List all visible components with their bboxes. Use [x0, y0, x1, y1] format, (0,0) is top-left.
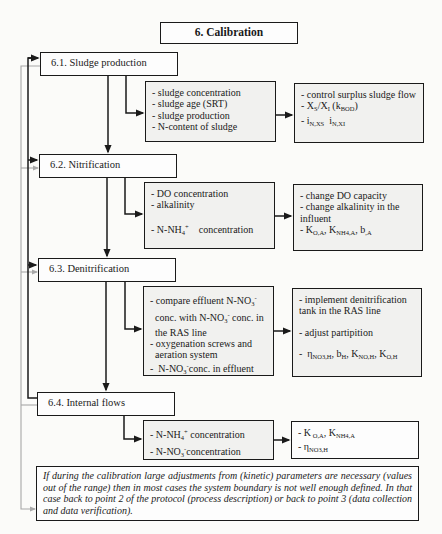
internal-flows-checks: - N-NH4+ concentration - N-NO3-concentra… [143, 420, 274, 460]
action-item: - change DO capacity [300, 190, 416, 201]
check-item: the RAS line [150, 327, 267, 338]
check-item: aeration system [150, 349, 267, 360]
sludge-production-checks: - sludge concentration - sludge age (SRT… [145, 81, 276, 142]
check-item: - DO concentration [151, 188, 268, 199]
action-item: - KO,A, KNH4,A, b,A [300, 224, 416, 238]
action-item: - change alkalinity in the influent [300, 201, 416, 224]
check-item: - sludge concentration [152, 87, 269, 98]
page-title: 6. Calibration [160, 22, 298, 44]
action-item: - implement denitrification tank in the … [299, 294, 415, 317]
check-item: - N-content of sludge [152, 121, 269, 132]
check-item: - alkalinity [151, 199, 268, 210]
section-heading-denitrification: 6.3. Denitrification [38, 258, 176, 282]
check-item: - oxygenation screws and [150, 338, 267, 349]
check-item: - sludge age (SRT) [152, 98, 269, 109]
action-item: - control surplus sludge flow [301, 89, 417, 100]
check-item: - N-NH4+ concentration [151, 221, 268, 238]
section-heading-nitrification: 6.2. Nitrification [39, 154, 177, 178]
internal-flows-actions: - K O,A, KNH4,A - ηNO3,H [291, 421, 419, 459]
check-item: - compare effluent N-NO3- [150, 292, 267, 309]
denitrification-checks: - compare effluent N-NO3- conc. with N-N… [143, 286, 274, 376]
nitrification-actions: - change DO capacity - change alkalinity… [293, 184, 423, 251]
sludge-production-actions: - control surplus sludge flow - XS/XI (k… [294, 83, 424, 143]
check-item: - N-NO3-concentration [150, 443, 267, 460]
check-item: - sludge production [152, 110, 269, 121]
action-item: - iN,XS iN,XI [301, 115, 417, 129]
section-heading-internal-flows: 6.4. Internal flows [37, 392, 175, 416]
section-heading-sludge-production: 6.1. Sludge production [40, 52, 178, 76]
action-item: - adjust partipition [299, 327, 415, 338]
action-item: - K O,A, KNH4,A [298, 427, 412, 441]
calibration-note: If during the calibration large adjustme… [36, 466, 419, 521]
action-item: - ηNO3,H [298, 441, 412, 455]
action-item: - XS/XI (kBOD) [301, 100, 417, 114]
denitrification-actions: - implement denitrification tank in the … [292, 288, 422, 377]
check-item: conc. with N-NO3- conc. in [150, 309, 267, 326]
check-item: - N-NH4+ concentration [150, 426, 267, 443]
nitrification-checks: - DO concentration - alkalinity - N-NH4+… [144, 182, 275, 249]
check-item: - N-NO3-conc. in effluent [150, 360, 267, 377]
action-item: - ηNO3,H, bH, KNO,H, KO,H [299, 348, 415, 362]
